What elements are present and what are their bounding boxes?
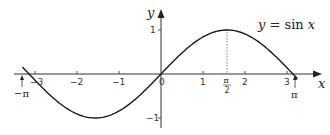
tick-3: 3: [284, 77, 290, 87]
pi-label: π: [291, 89, 298, 100]
x-axis-label: x: [318, 76, 326, 91]
tick-2: 2: [242, 77, 248, 87]
neg-pi-label: −π: [14, 88, 29, 99]
y-axis-arrow-icon: [158, 9, 165, 18]
tick-neg2: −2: [70, 77, 83, 87]
y-axis-label: y: [146, 5, 155, 20]
ytick-1: 1: [150, 25, 156, 35]
neg-pi-arrow-icon: [20, 75, 24, 80]
sine-chart: −3 −2 −1 0 1 2 3 1 −1 y x π 2 −π π y = s…: [0, 0, 330, 135]
tick-neg1: −1: [112, 77, 125, 87]
tick-origin: 0: [159, 77, 165, 87]
half-pi-denominator: 2: [225, 86, 230, 95]
half-pi-numerator: π: [224, 76, 229, 85]
equation-label: y = sin x: [257, 17, 316, 32]
tick-1: 1: [200, 77, 206, 87]
ytick-neg1: −1: [146, 113, 159, 123]
